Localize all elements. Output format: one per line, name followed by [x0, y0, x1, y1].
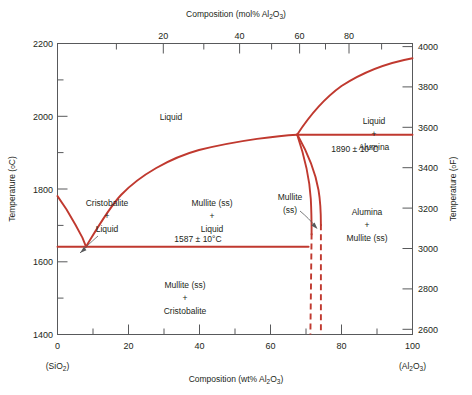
- svg-text:1400: 1400: [33, 330, 53, 340]
- svg-text:2600: 2600: [418, 325, 438, 335]
- curve-alumina-liquidus: [297, 58, 412, 135]
- right-axis-ticks: [403, 47, 413, 330]
- svg-text:40: 40: [235, 31, 245, 41]
- svg-text:100: 100: [405, 341, 420, 351]
- peritectic-temperature-label: 1890 ± 10°C: [331, 144, 378, 154]
- region-label-cristobalite-liquid: Cristobalite + Liquid: [86, 198, 129, 234]
- svg-text:3200: 3200: [418, 204, 438, 214]
- top-axis-tick-labels: 20 40 60 80: [158, 31, 354, 41]
- svg-text:4000: 4000: [418, 42, 438, 52]
- left-axis-title: Temperature (oC): [7, 156, 17, 222]
- svg-text:Mullite (ss): Mullite (ss): [346, 233, 387, 243]
- dashed-mullite-left-boundary: [310, 234, 311, 335]
- svg-text:+: +: [372, 129, 377, 139]
- svg-text:20: 20: [123, 341, 133, 351]
- phase-diagram-figure: Composition (mol% Al2O3) 20 40 60 80 Tem…: [0, 0, 472, 395]
- region-label-mullite-ss: Mullite (ss): [278, 192, 303, 215]
- svg-text:20: 20: [158, 31, 168, 41]
- svg-text:Cristobalite: Cristobalite: [164, 306, 207, 316]
- svg-text:Liquid: Liquid: [96, 224, 119, 234]
- left-axis-tick-labels: 2200 2000 1800 1600 1400: [33, 39, 53, 340]
- top-axis-title: Composition (mol% Al2O3): [186, 9, 286, 20]
- svg-text:Mullite: Mullite: [278, 192, 303, 202]
- svg-text:2800: 2800: [418, 284, 438, 294]
- svg-text:Alumina: Alumina: [352, 207, 383, 217]
- svg-text:3400: 3400: [418, 163, 438, 173]
- right-axis-title: Temperature (oF): [448, 157, 458, 222]
- region-label-alumina-mullite: Alumina + Mullite (ss): [346, 207, 387, 243]
- region-label-liquid: Liquid: [160, 112, 183, 122]
- svg-text:1600: 1600: [33, 257, 53, 267]
- svg-text:2000: 2000: [33, 112, 53, 122]
- svg-text:80: 80: [336, 341, 346, 351]
- region-label-mullite-cristobalite: Mullite (ss) + Cristobalite: [164, 280, 207, 316]
- top-axis-ticks: [116, 44, 381, 54]
- svg-text:60: 60: [265, 341, 275, 351]
- bottom-axis-ticks: [58, 325, 413, 335]
- endpoint-label-sio2: (SiO2): [46, 361, 70, 372]
- svg-text:+: +: [183, 293, 188, 303]
- left-axis-ticks: [58, 44, 68, 335]
- endpoint-label-al2o3: (Al2O3): [399, 361, 426, 372]
- svg-text:Mullite (ss): Mullite (ss): [191, 198, 232, 208]
- svg-text:+: +: [365, 220, 370, 230]
- svg-text:+: +: [210, 211, 215, 221]
- plot-frame: [58, 44, 413, 335]
- svg-text:Liquid: Liquid: [201, 224, 224, 234]
- curve-cristobalite-liquidus: [58, 196, 87, 247]
- svg-text:80: 80: [344, 31, 354, 41]
- svg-text:40: 40: [194, 341, 204, 351]
- svg-text:1800: 1800: [33, 185, 53, 195]
- eutectic-temperature-label: 1587 ± 10°C: [174, 234, 221, 244]
- svg-text:+: +: [105, 211, 110, 221]
- svg-text:3000: 3000: [418, 244, 438, 254]
- svg-text:Cristobalite: Cristobalite: [86, 198, 129, 208]
- region-label-mullite-liquid: Mullite (ss) + Liquid: [191, 198, 232, 234]
- bottom-axis-tick-labels: 0 20 40 60 80 100: [55, 341, 420, 351]
- svg-text:(ss): (ss): [283, 205, 297, 215]
- svg-text:60: 60: [295, 31, 305, 41]
- svg-text:3600: 3600: [418, 123, 438, 133]
- right-axis-tick-labels: 4000 3800 3600 3400 3200 3000 2800 2600: [418, 42, 438, 335]
- svg-text:2200: 2200: [33, 39, 53, 49]
- svg-text:0: 0: [55, 341, 60, 351]
- bottom-axis-title: Composition (wt% Al2O3): [189, 374, 284, 385]
- svg-text:Mullite (ss): Mullite (ss): [164, 280, 205, 290]
- svg-text:3800: 3800: [418, 82, 438, 92]
- svg-text:Liquid: Liquid: [363, 116, 386, 126]
- phase-diagram-svg: Composition (mol% Al2O3) 20 40 60 80 Tem…: [0, 0, 472, 395]
